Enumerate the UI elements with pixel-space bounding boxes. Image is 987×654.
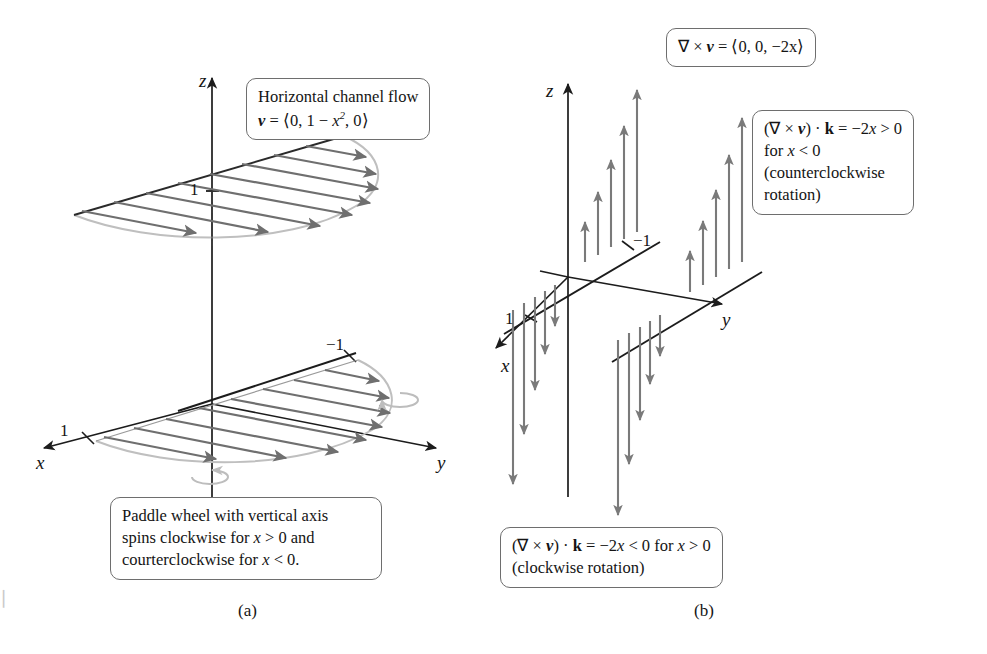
callout-paddle-line2: spins clockwise for x > 0 and bbox=[122, 527, 370, 549]
callout-paddle-line1: Paddle wheel with vertical axis bbox=[122, 505, 370, 527]
down-arrows-slice2 bbox=[618, 315, 660, 515]
callout-curl-prefix: ∇ × bbox=[678, 37, 707, 56]
callout-cw-k: k bbox=[573, 536, 582, 555]
x-axis-label-a: x bbox=[36, 452, 44, 474]
callout-ccw-line2: for x < 0 bbox=[764, 140, 902, 162]
callout-paddle-wheel: Paddle wheel with vertical axis spins cl… bbox=[110, 497, 382, 580]
callout-curl-tail: = ⟨0, 0, −2x⟩ bbox=[714, 37, 804, 56]
callout-cw-l1a: (∇ × bbox=[512, 536, 546, 555]
callout-ccw-l2a: for bbox=[764, 141, 787, 160]
y-axis-b bbox=[568, 277, 722, 304]
axis-stub-b bbox=[540, 271, 568, 277]
curl-arrow-cw-a bbox=[192, 470, 228, 484]
diagonal-line-1-b bbox=[504, 242, 660, 334]
callout-ccw-line4: rotation) bbox=[764, 184, 902, 206]
upper-flow-arrows bbox=[82, 146, 378, 233]
y-axis-label-b: y bbox=[722, 309, 730, 331]
callout-flow-line2: v = ⟨0, 1 − x2, 0⟩ bbox=[258, 108, 418, 131]
callout-paddle-line3-var: x bbox=[262, 550, 269, 569]
callout-counterclockwise: (∇ × v) · k = −2x > 0 for x < 0 (counter… bbox=[752, 110, 914, 215]
callout-ccw-l1b: ) · bbox=[805, 119, 824, 138]
callout-paddle-line3a: courterclockwise for bbox=[122, 550, 262, 569]
callout-paddle-line2-var: x bbox=[254, 528, 261, 547]
vector-v-symbol-b: v bbox=[707, 37, 714, 56]
z-tick-one-label-a: 1 bbox=[190, 180, 199, 200]
callout-paddle-line2b: > 0 and bbox=[261, 528, 315, 547]
callout-clockwise: (∇ × v) · k = −2x < 0 for x > 0 (clockwi… bbox=[500, 527, 723, 588]
callout-cw-line2: (clockwise rotation) bbox=[512, 557, 711, 579]
callout-paddle-line3: courterclockwise for x < 0. bbox=[122, 549, 370, 571]
scan-artifact-mark: ▏ bbox=[3, 590, 12, 606]
x-tick-one-label-a: 1 bbox=[60, 421, 69, 441]
panel-a-graphics bbox=[44, 78, 436, 500]
callout-horizontal-channel-flow: Horizontal channel flow v = ⟨0, 1 − x2, … bbox=[246, 78, 430, 140]
panel-b-graphics bbox=[496, 84, 762, 515]
callout-cw-l1d: < 0 for bbox=[624, 536, 677, 555]
up-arrows-slice1 bbox=[585, 90, 637, 262]
callout-ccw-l1c: = −2 bbox=[834, 119, 869, 138]
callout-cw-l1var2: x bbox=[678, 536, 685, 555]
neg-one-tick-label-a: −1 bbox=[326, 335, 344, 355]
panel-caption-a: (a) bbox=[238, 601, 257, 621]
callout-cw-l1c: = −2 bbox=[582, 536, 617, 555]
callout-paddle-line3b: < 0. bbox=[270, 550, 300, 569]
callout-flow-line1: Horizontal channel flow bbox=[258, 86, 418, 108]
callout-cw-l1e: > 0 bbox=[685, 536, 711, 555]
callout-cw-line1: (∇ × v) · k = −2x < 0 for x > 0 bbox=[512, 535, 711, 557]
callout-ccw-l1a: (∇ × bbox=[764, 119, 798, 138]
lower-flow-arrows bbox=[104, 370, 390, 459]
callout-ccw-l2b: < 0 bbox=[795, 141, 821, 160]
vector-field-curl-figure: z x y 1 1 −1 Horizontal channel flow v =… bbox=[0, 0, 987, 654]
x-axis-label-b: x bbox=[501, 355, 509, 377]
callout-ccw-l1d: > 0 bbox=[876, 119, 902, 138]
y-axis-a bbox=[212, 404, 436, 448]
callout-paddle-line2a: spins clockwise for bbox=[122, 528, 254, 547]
callout-curl-definition: ∇ × v = ⟨0, 0, −2x⟩ bbox=[666, 28, 816, 67]
diagonal-line-2-b bbox=[612, 272, 762, 362]
y-axis-label-a: y bbox=[437, 452, 445, 474]
callout-flow-var: x bbox=[332, 110, 339, 129]
callout-ccw-k: k bbox=[825, 119, 834, 138]
callout-flow-eq: = ⟨0, 1 − bbox=[265, 110, 332, 129]
callout-ccw-l2var: x bbox=[787, 141, 794, 160]
curl-arrow-ccw-a bbox=[382, 393, 418, 407]
neg-one-tick-label-b: −1 bbox=[633, 231, 651, 251]
up-arrows-slice2 bbox=[690, 118, 742, 292]
x-tick-one-label-b: 1 bbox=[505, 309, 514, 329]
callout-cw-l1b: ) · bbox=[553, 536, 572, 555]
callout-curl-line: ∇ × v = ⟨0, 0, −2x⟩ bbox=[678, 36, 804, 58]
z-axis-label-a: z bbox=[199, 70, 206, 92]
z-axis-label-b: z bbox=[546, 80, 553, 102]
callout-ccw-line1: (∇ × v) · k = −2x > 0 bbox=[764, 118, 902, 140]
down-arrows-slice1 bbox=[513, 285, 555, 484]
callout-ccw-line3: (counterclockwise bbox=[764, 162, 902, 184]
panel-caption-b: (b) bbox=[694, 601, 714, 621]
callout-flow-tail: , 0⟩ bbox=[345, 110, 369, 129]
